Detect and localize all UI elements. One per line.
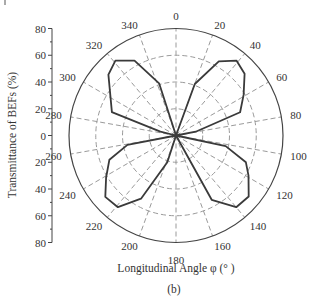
angle-label-320: 320 (86, 39, 103, 51)
radial-tick-label: 80 (35, 23, 47, 35)
transmittance-curve (105, 61, 248, 208)
angle-label-200: 200 (121, 240, 138, 252)
angle-label-20: 20 (214, 19, 226, 31)
figure-caption: (b) (167, 283, 181, 296)
radial-axis: 80604020020406080 (35, 23, 52, 249)
angle-label-220: 220 (86, 220, 103, 232)
angle-label-120: 120 (276, 189, 293, 201)
radial-tick-label: 60 (35, 49, 47, 61)
angle-label-40: 40 (250, 39, 262, 51)
radial-tick-label: 20 (35, 156, 47, 168)
radial-tick-label: 80 (35, 237, 47, 249)
radial-tick-label: 40 (35, 76, 47, 88)
angle-label-100: 100 (290, 150, 307, 162)
angle-label-80: 80 (290, 109, 302, 121)
angle-label-140: 140 (250, 220, 267, 232)
angle-label-60: 60 (276, 71, 288, 83)
angle-label-0: 0 (173, 10, 179, 22)
radial-tick-label: 20 (35, 103, 47, 115)
polar-chart: 0204060801001201401601802002202402602803… (0, 0, 310, 304)
radial-tick-label: 0 (41, 130, 47, 142)
angle-label-260: 260 (45, 150, 62, 162)
x-axis-title: Longitudinal Angle φ (° ) (117, 262, 234, 275)
angle-label-300: 300 (59, 71, 76, 83)
angle-label-280: 280 (45, 109, 62, 121)
angle-label-240: 240 (59, 189, 76, 201)
radial-tick-label: 40 (35, 183, 47, 195)
grid-spoke-140 (176, 136, 245, 218)
radial-tick-label: 60 (35, 210, 47, 222)
angle-label-340: 340 (121, 19, 138, 31)
angle-label-160: 160 (214, 240, 231, 252)
y-axis-title: Transmittance of BEFs (%) (6, 72, 19, 199)
